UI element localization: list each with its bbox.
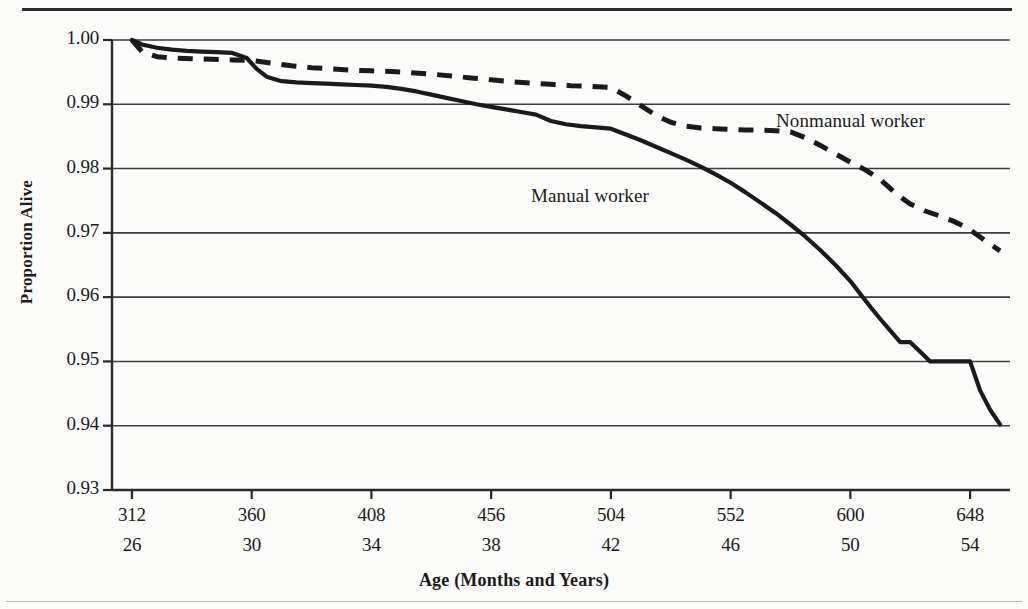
y-tick-label: 0.93: [21, 477, 99, 499]
x-tick-label-months: 552: [686, 504, 776, 526]
x-tick-label-months: 360: [207, 504, 297, 526]
y-tick-label: 1.00: [21, 27, 99, 49]
x-tick-label-years: 38: [446, 534, 536, 556]
x-tick-label-years: 42: [566, 534, 656, 556]
x-tick-label-years: 50: [805, 534, 895, 556]
x-axis-title: Age (Months and Years): [0, 570, 1028, 591]
x-tick-label-months: 312: [87, 504, 177, 526]
x-tick-label-years: 46: [686, 534, 776, 556]
x-tick-label-years: 54: [925, 534, 1015, 556]
y-tick-label: 0.94: [21, 413, 99, 435]
y-tick-mark-group: [103, 40, 112, 490]
x-tick-label-years: 34: [326, 534, 416, 556]
x-tick-mark-group: [132, 490, 970, 499]
bottom-horizontal-rule: [6, 601, 1022, 602]
x-tick-label-months: 504: [566, 504, 656, 526]
x-tick-label-months: 456: [446, 504, 536, 526]
series-label-manual: Manual worker: [531, 185, 649, 207]
y-tick-label: 0.99: [21, 91, 99, 113]
figure-container: 0.930.940.950.960.970.980.991.00 3122636…: [0, 0, 1028, 609]
axis-spine-group: [112, 40, 1010, 490]
y-tick-label: 0.95: [21, 348, 99, 370]
x-tick-label-years: 26: [87, 534, 177, 556]
y-axis-title: Proportion Alive: [17, 142, 37, 342]
x-tick-label-months: 600: [805, 504, 895, 526]
x-tick-label-years: 30: [207, 534, 297, 556]
x-tick-label-months: 408: [326, 504, 416, 526]
gridline-group: [112, 40, 1010, 426]
series-label-nonmanual: Nonmanual worker: [776, 110, 925, 132]
x-tick-label-months: 648: [925, 504, 1015, 526]
